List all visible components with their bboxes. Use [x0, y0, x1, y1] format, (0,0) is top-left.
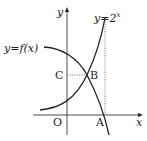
- y-axis-label: y: [56, 6, 64, 19]
- point-B-label: B: [90, 69, 98, 82]
- origin-label: O: [53, 116, 62, 129]
- exponential-curve-label: y=2x: [93, 11, 120, 25]
- y-axis-arrow-icon: [65, 7, 69, 12]
- exponent: x: [116, 11, 120, 19]
- point-A-label: A: [95, 116, 105, 129]
- f-curve-label: y=f(x): [3, 42, 38, 55]
- graph-diagram: y x O A B C y=2x y=f(x): [0, 0, 147, 141]
- x-axis-label: x: [136, 116, 143, 129]
- point-C-label: C: [55, 69, 63, 82]
- curve-exponential: [40, 18, 105, 110]
